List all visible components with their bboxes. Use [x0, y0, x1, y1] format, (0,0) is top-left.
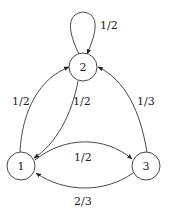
- node-label: 2: [80, 61, 87, 74]
- markov-chain-diagram: 1/2 1/2 1/2 1/3 1/2 2/3 2 1 3: [0, 0, 172, 220]
- edge-label-3-1: 2/3: [74, 195, 92, 208]
- node-3: 3: [132, 152, 160, 180]
- edge-label-2-2: 1/2: [100, 19, 118, 32]
- edge-2-1: [34, 81, 78, 158]
- node-label: 1: [18, 160, 25, 173]
- edge-2-2: [70, 12, 95, 54]
- edge-label-1-2: 1/2: [12, 95, 30, 108]
- edge-1-2: [20, 67, 69, 152]
- edge-label-2-1: 1/2: [73, 95, 91, 108]
- node-2: 2: [69, 53, 97, 81]
- edge-3-1: [36, 173, 133, 188]
- node-label: 3: [143, 160, 150, 173]
- edge-label-1-3: 1/2: [74, 151, 92, 164]
- edge-label-3-2: 1/3: [137, 95, 155, 108]
- node-1: 1: [7, 152, 35, 180]
- edge-3-2: [98, 67, 147, 152]
